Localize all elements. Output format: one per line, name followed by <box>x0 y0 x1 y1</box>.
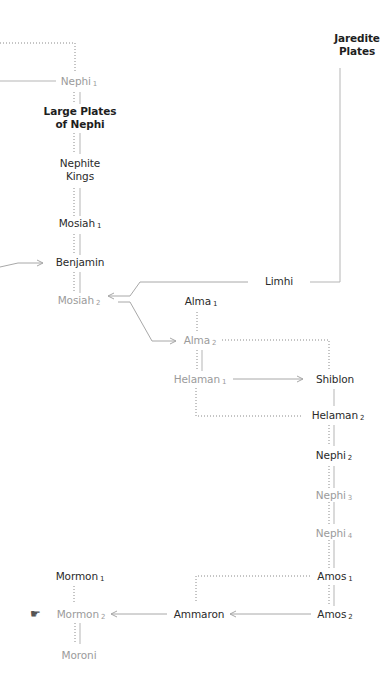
node-label: Nephi <box>316 449 346 461</box>
node-label: Large Plates <box>44 105 117 118</box>
node-ammaron: Ammaron <box>174 608 225 621</box>
node-label: Nephi <box>316 527 346 539</box>
node-helaman-1: Helaman1 <box>174 373 227 389</box>
node-label: Kings <box>60 170 100 183</box>
node-mormon-1: Mormon1 <box>56 570 105 586</box>
plates-transmission-diagram: Jaredite Plates Nephi1 Large Plates of N… <box>0 0 387 691</box>
node-label: Amos <box>317 570 346 582</box>
node-subscript: 2 <box>212 339 216 347</box>
node-label: Mormon <box>56 570 98 582</box>
node-nephi-3: Nephi3 <box>316 489 352 505</box>
node-label: Helaman <box>174 373 220 385</box>
node-label: Ammaron <box>174 608 225 620</box>
node-subscript: 1 <box>213 300 217 308</box>
node-subscript: 2 <box>96 299 100 307</box>
node-label: Mosiah <box>59 217 95 229</box>
node-label: Plates <box>334 45 380 58</box>
node-subscript: 1 <box>222 378 226 386</box>
node-subscript: 1 <box>97 222 101 230</box>
node-subscript: 4 <box>348 532 352 540</box>
node-label: Alma <box>184 334 210 346</box>
node-subscript: 2 <box>348 613 352 621</box>
node-label: Moroni <box>62 649 97 661</box>
pointing-hand-icon: ☛ <box>30 608 41 620</box>
node-helaman-2: Helaman2 <box>312 409 365 425</box>
node-large-plates-of-nephi: Large Plates of Nephi <box>44 105 117 131</box>
node-label: of Nephi <box>44 118 117 131</box>
node-mormon-2: Mormon2 <box>57 608 106 624</box>
node-moroni: Moroni <box>62 649 97 662</box>
node-label: Nephi <box>316 489 346 501</box>
node-alma-2: Alma2 <box>184 334 217 350</box>
node-label: Benjamin <box>56 256 105 268</box>
node-label: Amos <box>317 608 346 620</box>
node-label: Helaman <box>312 409 358 421</box>
node-label: Limhi <box>265 275 293 287</box>
node-subscript: 1 <box>93 80 97 88</box>
node-subscript: 2 <box>348 454 352 462</box>
node-label: Nephi <box>61 75 91 87</box>
node-subscript: 2 <box>101 613 105 621</box>
node-nephi-2: Nephi2 <box>316 449 352 465</box>
node-limhi: Limhi <box>265 275 293 288</box>
node-alma-1: Alma1 <box>185 295 218 311</box>
node-amos-2: Amos2 <box>317 608 352 624</box>
node-mosiah-2: Mosiah2 <box>58 294 101 310</box>
node-nephi-1: Nephi1 <box>61 75 97 91</box>
node-nephi-4: Nephi4 <box>316 527 352 543</box>
node-nephite-kings: Nephite Kings <box>60 157 100 183</box>
node-jaredite-plates: Jaredite Plates <box>334 32 380 58</box>
node-label: Jaredite <box>334 32 380 45</box>
node-label: Nephite <box>60 157 100 170</box>
node-subscript: 3 <box>348 494 352 502</box>
node-subscript: 1 <box>348 575 352 583</box>
node-label: Shiblon <box>316 373 354 385</box>
node-label: Alma <box>185 295 211 307</box>
node-label: Mormon <box>57 608 99 620</box>
node-shiblon: Shiblon <box>316 373 354 386</box>
node-mosiah-1: Mosiah1 <box>59 217 102 233</box>
node-benjamin: Benjamin <box>56 256 105 269</box>
node-subscript: 1 <box>100 575 104 583</box>
node-amos-1: Amos1 <box>317 570 352 586</box>
node-label: Mosiah <box>58 294 94 306</box>
node-subscript: 2 <box>360 414 364 422</box>
